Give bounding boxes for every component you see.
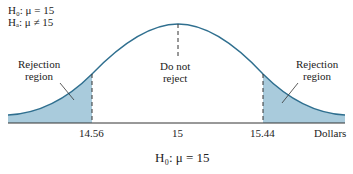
axis-unit-label: Dollars xyxy=(314,127,346,139)
right-region-line1: Rejection xyxy=(296,58,338,70)
left-region-label: Rejection region xyxy=(18,58,60,82)
tick-label-left: 14.56 xyxy=(79,127,104,139)
center-region-line2: reject xyxy=(160,72,190,84)
tick-label-center: 15 xyxy=(172,127,183,139)
alt-hypothesis: Hₐ: μ ≠ 15 xyxy=(8,16,53,28)
null-hypothesis: H₀: μ = 15 xyxy=(8,4,54,16)
right-region-label: Rejection region xyxy=(296,58,338,82)
left-region-line1: Rejection xyxy=(18,58,60,70)
center-region-label: Do not reject xyxy=(160,60,190,84)
center-region-line1: Do not xyxy=(160,60,190,72)
tick-label-right: 15.44 xyxy=(250,127,275,139)
right-region-line2: region xyxy=(296,70,338,82)
caption: H₀: μ = 15 xyxy=(155,150,210,166)
left-region-line2: region xyxy=(18,70,60,82)
